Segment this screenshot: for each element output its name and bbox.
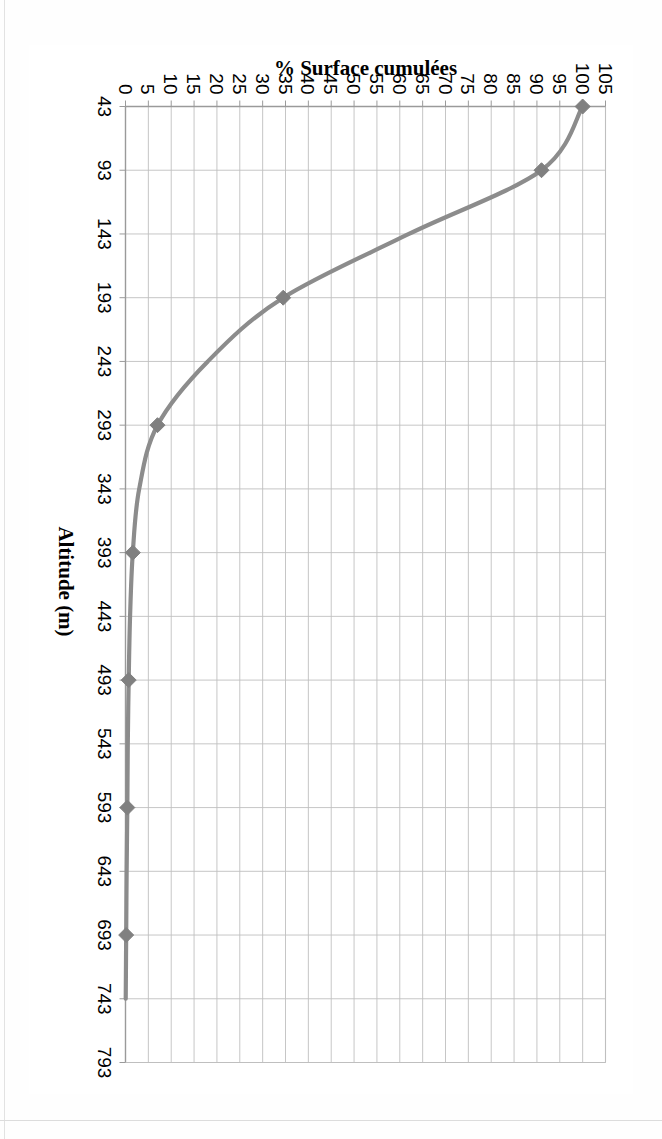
x-tick-label: 443 bbox=[94, 601, 115, 633]
y-tick-label: 20 bbox=[206, 73, 227, 94]
y-tick-label: 90 bbox=[526, 73, 547, 94]
x-tick-label: 593 bbox=[94, 792, 115, 824]
y-tick-label: 0 bbox=[115, 84, 136, 95]
y-tick-label: 75 bbox=[457, 73, 478, 94]
x-tick-label: 193 bbox=[94, 282, 115, 314]
x-tick-label: 243 bbox=[94, 346, 115, 378]
x-tick-label: 643 bbox=[94, 855, 115, 887]
x-tick-label: 743 bbox=[94, 983, 115, 1015]
x-tick-label: 143 bbox=[94, 218, 115, 250]
rotated-chart-figure: 4393143193243293343393443493543593643693… bbox=[29, 45, 634, 1095]
y-tick-label: 25 bbox=[229, 73, 250, 94]
y-tick-label: 15 bbox=[183, 73, 204, 94]
x-tick-label: 43 bbox=[94, 96, 115, 117]
x-tick-label: 793 bbox=[94, 1047, 115, 1079]
scanned-page: 4393143193243293343393443493543593643693… bbox=[0, 0, 662, 1139]
y-tick-label: 95 bbox=[549, 73, 570, 94]
hypsometric-curve-chart: 4393143193243293343393443493543593643693… bbox=[29, 45, 634, 1095]
x-tick-label: 293 bbox=[94, 409, 115, 441]
y-axis-title: % Surface cumulées bbox=[274, 56, 457, 80]
y-tick-label: 80 bbox=[480, 73, 501, 94]
x-axis-title: Altitude (m) bbox=[54, 526, 78, 636]
y-tick-label: 30 bbox=[252, 73, 273, 94]
y-tick-label: 105 bbox=[595, 63, 616, 95]
x-tick-label: 493 bbox=[94, 664, 115, 696]
y-tick-label: 5 bbox=[137, 84, 158, 95]
x-tick-label: 393 bbox=[94, 537, 115, 569]
x-tick-label: 343 bbox=[94, 473, 115, 505]
x-tick-label: 693 bbox=[94, 919, 115, 951]
y-tick-label: 85 bbox=[503, 73, 524, 94]
x-tick-label: 93 bbox=[94, 160, 115, 181]
y-tick-label: 100 bbox=[572, 63, 593, 95]
x-tick-label: 543 bbox=[94, 728, 115, 760]
y-tick-label: 10 bbox=[160, 73, 181, 94]
